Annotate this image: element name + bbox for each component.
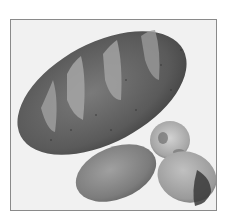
photo-frame [10, 19, 217, 211]
bread-photo [11, 20, 217, 211]
